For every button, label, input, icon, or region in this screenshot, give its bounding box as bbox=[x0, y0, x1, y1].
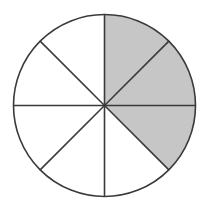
fraction-circle-diagram bbox=[0, 0, 204, 205]
center-point bbox=[103, 104, 106, 107]
